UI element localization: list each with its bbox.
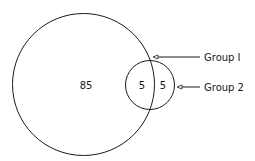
intersection-count: 5 xyxy=(139,80,145,91)
group1-pointer-arrow xyxy=(153,55,200,59)
venn-diagram: 85 5 5 Group I Group 2 xyxy=(0,0,255,161)
group1-label: Group I xyxy=(204,52,241,63)
group2-only-count: 5 xyxy=(160,80,166,91)
group2-label: Group 2 xyxy=(204,82,244,93)
group2-circle xyxy=(126,61,175,110)
group1-only-count: 85 xyxy=(80,80,93,91)
group2-pointer-arrow xyxy=(177,85,200,89)
